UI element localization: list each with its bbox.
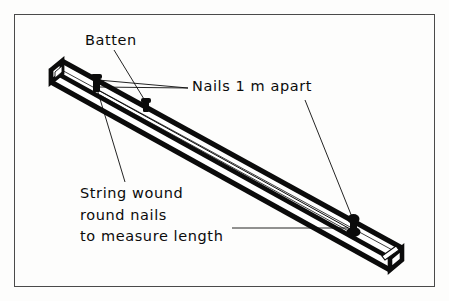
batten-diagram-svg [0, 0, 449, 301]
label-string-wound: String wound round nails to measure leng… [80, 186, 223, 244]
label-string-line-2: round nails [80, 208, 223, 223]
label-nails-1m-apart: Nails 1 m apart [192, 79, 312, 94]
label-string-line-3: to measure length [80, 229, 223, 244]
label-batten: Batten [85, 33, 137, 48]
diagram-page: Batten Nails 1 m apart String wound roun… [0, 0, 449, 301]
label-string-line-1: String wound [80, 186, 223, 201]
